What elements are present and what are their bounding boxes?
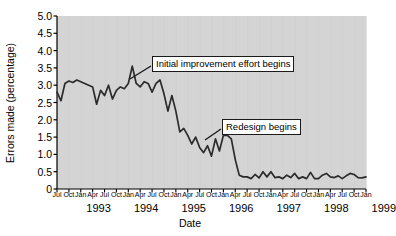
x-year-label: 1999 bbox=[372, 202, 396, 214]
x-tick-label: Jul bbox=[195, 191, 204, 198]
x-tick-label: Jul bbox=[243, 191, 252, 198]
x-tick-label: Jul bbox=[338, 191, 347, 198]
x-tick-label: Apr bbox=[182, 191, 193, 198]
x-tick-label: Jul bbox=[290, 191, 299, 198]
x-tick-label: Oct bbox=[254, 191, 265, 198]
x-year-label: 1997 bbox=[277, 202, 301, 214]
x-tick-label: Oct bbox=[111, 191, 122, 198]
x-tick-label: Oct bbox=[63, 191, 74, 198]
annotation-redesign: Redesign begins bbox=[222, 119, 301, 135]
x-tick-label: Jan bbox=[170, 191, 181, 198]
x-tick-label: Jan bbox=[265, 191, 276, 198]
x-year-label: 1996 bbox=[229, 202, 253, 214]
x-tick-label: Jul bbox=[148, 191, 157, 198]
x-tick-label: Jan bbox=[313, 191, 324, 198]
x-year-label: 1998 bbox=[324, 202, 348, 214]
x-tick-label: Oct bbox=[159, 191, 170, 198]
x-year-label: 1994 bbox=[134, 202, 158, 214]
x-tick-label: Jan bbox=[360, 191, 371, 198]
x-tick-label: Apr bbox=[87, 191, 98, 198]
x-tick-label: Apr bbox=[230, 191, 241, 198]
x-tick-label: Oct bbox=[349, 191, 360, 198]
annotation-initial-improvement: Initial improvement effort begins bbox=[152, 56, 294, 72]
x-year-label: 1995 bbox=[181, 202, 205, 214]
x-tick-label: Jan bbox=[218, 191, 229, 198]
x-tick-label: Apr bbox=[277, 191, 288, 198]
x-year-label: 1993 bbox=[86, 202, 110, 214]
x-tick-label: Jul bbox=[53, 191, 62, 198]
x-tick-label: Apr bbox=[135, 191, 146, 198]
x-axis-title: Date bbox=[0, 217, 380, 229]
x-tick-label: Oct bbox=[206, 191, 217, 198]
x-tick-label: Jan bbox=[75, 191, 86, 198]
x-tick-label: Apr bbox=[325, 191, 336, 198]
x-tick-label: Jul bbox=[100, 191, 109, 198]
x-tick-label: Jan bbox=[123, 191, 134, 198]
x-tick-label: Oct bbox=[301, 191, 312, 198]
